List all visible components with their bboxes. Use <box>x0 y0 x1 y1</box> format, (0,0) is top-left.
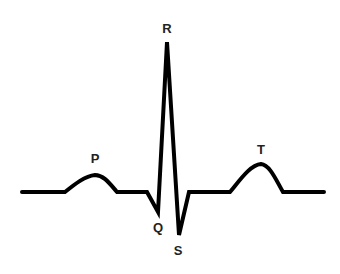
label-t: T <box>257 142 265 157</box>
label-q: Q <box>153 220 163 235</box>
label-r: R <box>162 21 172 36</box>
label-p: P <box>91 151 100 166</box>
label-s: S <box>174 243 183 258</box>
ecg-trace <box>22 42 324 235</box>
ecg-diagram: P R Q S T <box>0 0 340 274</box>
